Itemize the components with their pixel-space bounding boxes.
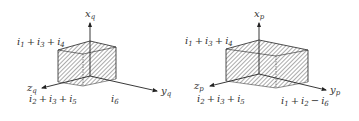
axis-y-q bbox=[90, 76, 157, 91]
diagram-p: xp zp yp i1+i3+i4 i2+i3+i5 i1+i2−i6 bbox=[185, 8, 341, 108]
box-p bbox=[226, 40, 308, 88]
extent-y-q: i6 bbox=[111, 93, 119, 106]
extent-x-p: i1+i3+i4 bbox=[185, 35, 233, 48]
diagram-q: xq zq yq i1+i3+i4 i2+i3+i5 i6 bbox=[17, 8, 172, 106]
box-q bbox=[58, 41, 116, 86]
axis-label-x-p: xp bbox=[254, 8, 265, 21]
axis-label-z-p: zp bbox=[193, 80, 204, 93]
cuboid-diagrams: xq zq yq i1+i3+i4 i2+i3+i5 i6 xp zp yp bbox=[0, 0, 359, 121]
axis-label-x-q: xq bbox=[85, 8, 96, 21]
extent-x-q: i1+i3+i4 bbox=[17, 36, 65, 49]
extent-y-p: i1+i2−i6 bbox=[281, 95, 329, 108]
extent-z-p: i2+i3+i5 bbox=[197, 93, 245, 106]
axis-label-y-q: yq bbox=[160, 85, 172, 98]
axis-label-y-p: yp bbox=[329, 84, 341, 97]
